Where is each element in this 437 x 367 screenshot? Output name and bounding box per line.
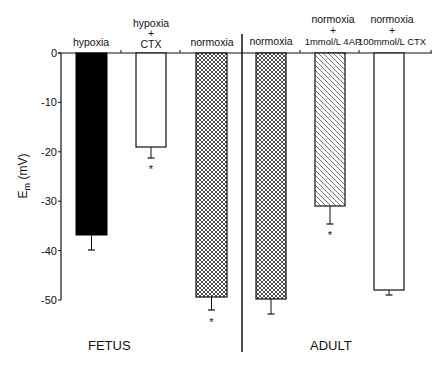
- group-label-fetus: FETUS: [88, 338, 131, 353]
- bar-fetus-hypoxia-ctx: *: [136, 53, 166, 175]
- svg-text:-50: -50: [41, 294, 57, 306]
- svg-text:hypoxia: hypoxia: [73, 36, 109, 48]
- bar-chart: 0 -10 -20 -30 -40 -50 Em (mV) * * * hypo: [0, 0, 437, 367]
- svg-text:-10: -10: [41, 96, 57, 108]
- chart-figure: 0 -10 -20 -30 -40 -50 Em (mV) * * * hypo: [0, 0, 437, 367]
- svg-text:-40: -40: [41, 245, 57, 257]
- svg-text:-30: -30: [41, 195, 57, 207]
- category-labels: hypoxia hypoxia + CTX normoxia normoxia …: [73, 13, 427, 50]
- svg-text:normoxia: normoxia: [249, 35, 292, 47]
- svg-text:*: *: [328, 229, 333, 241]
- y-ticks: 0 -10 -20 -30 -40 -50: [41, 47, 61, 306]
- svg-text:0: 0: [51, 47, 57, 59]
- group-label-adult: ADULT: [310, 338, 352, 353]
- bar-adult-normoxia: [256, 53, 286, 314]
- svg-text:-20: -20: [41, 146, 57, 158]
- svg-text:+: +: [389, 24, 395, 36]
- svg-text:+: +: [330, 24, 336, 36]
- svg-text:normoxia: normoxia: [190, 36, 233, 48]
- bar-fetus-normoxia: *: [196, 53, 227, 328]
- svg-text:Em (mV): Em (mV): [16, 154, 32, 199]
- y-axis-label: Em (mV): [16, 154, 32, 199]
- svg-text:CTX: CTX: [141, 38, 162, 50]
- bar-adult-ctx100: [374, 53, 404, 295]
- bar-fetus-hypoxia: [76, 53, 107, 250]
- svg-text:*: *: [149, 163, 154, 175]
- svg-text:100mmol/L CTX: 100mmol/L CTX: [358, 36, 427, 47]
- svg-text:*: *: [209, 316, 214, 328]
- bar-adult-4ap: *: [315, 53, 345, 241]
- svg-text:1mmol/L 4AP: 1mmol/L 4AP: [305, 36, 362, 47]
